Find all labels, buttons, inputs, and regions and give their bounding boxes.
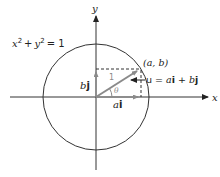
x-axis-label: x — [212, 92, 218, 103]
point-label: (a, b) — [143, 57, 168, 68]
bj-label: bj — [80, 80, 90, 91]
theta-arc — [110, 89, 113, 98]
ai-label: ai — [113, 99, 122, 110]
y-axis-label: y — [91, 3, 98, 14]
vector-u-label: u = ai + bj — [146, 74, 198, 85]
magnitude-label: 1 — [109, 73, 114, 82]
circle-equation: x2+y2= 1 — [12, 37, 65, 49]
theta-label: θ — [114, 86, 119, 95]
unit-circle-diagram: y x x2+y2= 1 (a, b) u = ai + bj 1 θ bj a… — [0, 0, 220, 177]
